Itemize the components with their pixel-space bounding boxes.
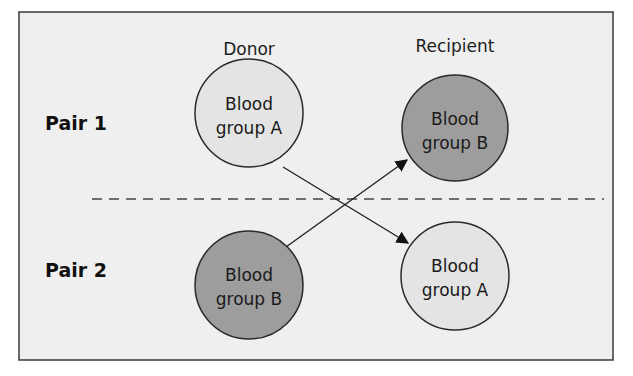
pair-2-label: Pair 2 xyxy=(45,259,107,281)
pair-2-donor-node: Blood group B xyxy=(195,231,303,339)
donor-column-label: Donor xyxy=(223,39,275,59)
diagram-frame xyxy=(19,12,613,360)
paired-donation-diagram: Donor Recipient Pair 1 Pair 2 Blood grou… xyxy=(0,0,633,376)
node-text-line2: group A xyxy=(216,118,283,138)
node-text-line2: group B xyxy=(422,133,488,153)
node-text-line2: group B xyxy=(216,289,282,309)
pair-1-donor-node: Blood group A xyxy=(195,59,303,167)
node-text-line1: Blood xyxy=(431,256,479,276)
node-text-line1: Blood xyxy=(431,109,479,129)
pair-2-recipient-node: Blood group A xyxy=(401,222,509,330)
recipient-column-label: Recipient xyxy=(416,36,495,56)
blood-group-b-circle xyxy=(195,231,303,339)
pair-1-label: Pair 1 xyxy=(45,112,107,134)
pair-1-recipient-node: Blood group B xyxy=(402,75,508,181)
node-text-line2: group A xyxy=(422,280,489,300)
node-text-line1: Blood xyxy=(225,265,273,285)
blood-group-a-circle xyxy=(401,222,509,330)
node-text-line1: Blood xyxy=(225,94,273,114)
